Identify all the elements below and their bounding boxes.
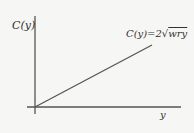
- y-axis-label: C(y): [12, 19, 35, 32]
- equation-radicand: wry: [168, 28, 187, 39]
- cost-line: [35, 45, 152, 107]
- equation-prefix: C(y)=2: [126, 28, 162, 39]
- equation-label: C(y)=2√wry: [126, 28, 187, 39]
- x-axis-label: y: [160, 109, 166, 120]
